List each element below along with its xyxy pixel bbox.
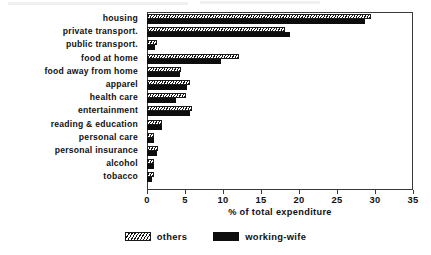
x-axis-tick-label: 10 [208, 194, 238, 205]
category-label: tobacco [0, 171, 138, 181]
category-label: apparel [0, 79, 138, 89]
legend-label-working-wife: working-wife [245, 231, 306, 242]
bar-working-wife [147, 85, 187, 90]
x-axis-tick-label: 35 [398, 194, 428, 205]
x-axis-tick-label: 25 [322, 194, 352, 205]
category-label: alcohol [0, 158, 138, 168]
x-axis-tick-label: 5 [170, 194, 200, 205]
bar-working-wife [147, 151, 157, 156]
x-axis-title: % of total expenditure [147, 207, 413, 217]
legend-swatch-working-wife-icon [213, 232, 239, 241]
chart-legend: others working-wife [0, 231, 431, 242]
bar-working-wife [147, 164, 154, 169]
category-axis-labels: housingprivate transport.public transpor… [0, 12, 142, 184]
category-label: public transport. [0, 39, 138, 49]
category-label: food away from home [0, 66, 138, 76]
legend-item-working-wife: working-wife [213, 231, 306, 242]
bar-working-wife [147, 19, 365, 24]
category-label: food at home [0, 53, 138, 63]
category-label: entertainment [0, 105, 138, 115]
bar-working-wife [147, 138, 154, 143]
x-axis-tick-label: 30 [360, 194, 390, 205]
bar-working-wife [147, 32, 290, 37]
category-label: housing [0, 13, 138, 23]
category-label: private transport. [0, 26, 138, 36]
bar-working-wife [147, 177, 152, 182]
category-label: health care [0, 92, 138, 102]
bar-working-wife [147, 45, 155, 50]
x-axis-tick-label: 20 [284, 194, 314, 205]
category-label: personal care [0, 132, 138, 142]
bar-working-wife [147, 72, 180, 77]
scan-artifact [200, 1, 320, 4]
x-axis-tick-label: 15 [246, 194, 276, 205]
legend-item-others: others [125, 231, 187, 242]
bar-working-wife [147, 125, 162, 130]
legend-label-others: others [157, 231, 187, 242]
legend-swatch-others-icon [125, 232, 151, 241]
bar-working-wife [147, 111, 190, 116]
bar-working-wife [147, 98, 176, 103]
bars-layer [147, 12, 413, 190]
bar-working-wife [147, 59, 221, 64]
x-axis-tick-label: 0 [132, 194, 162, 205]
scan-artifact [8, 2, 188, 5]
category-label: personal insurance [0, 145, 138, 155]
category-label: reading & education [0, 119, 138, 129]
expenditure-bar-chart: housingprivate transport.public transpor… [0, 0, 431, 255]
